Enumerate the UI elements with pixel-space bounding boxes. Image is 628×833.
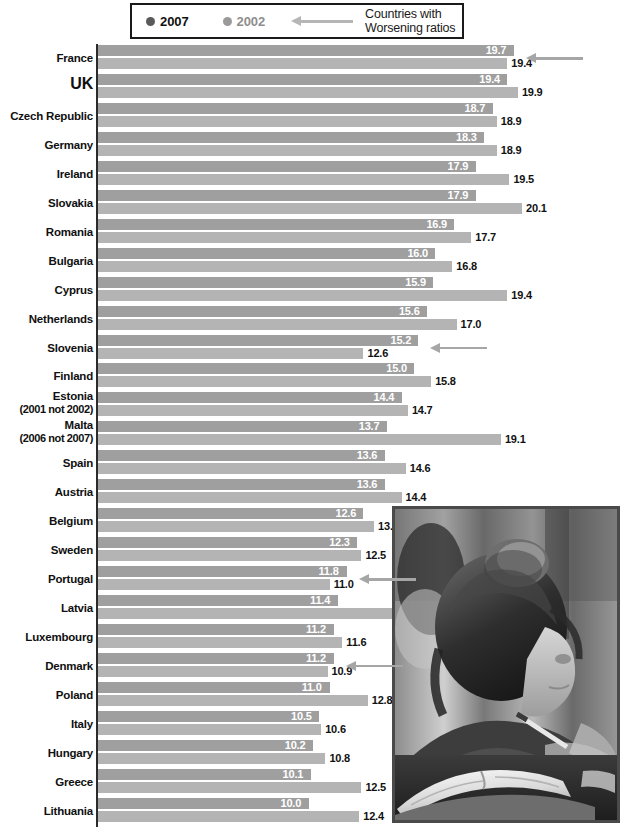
value-label-2002-lithuania: 12.4	[363, 811, 384, 822]
value-label-2002-malta: 19.1	[505, 434, 526, 445]
bar-2007-greece	[97, 769, 311, 780]
value-label-2007-estonia: 14.4	[374, 392, 395, 403]
value-label-2007-finland: 15.0	[386, 363, 407, 374]
bar-2007-poland	[97, 682, 330, 693]
category-label-denmark: Denmark	[0, 660, 93, 673]
bar-2002-italy	[97, 724, 321, 735]
category-label-estonia: Estonia(2001 not 2002)	[0, 390, 93, 415]
category-label-austria: Austria	[0, 486, 93, 499]
bar-2007-cyprus	[97, 277, 433, 288]
chart-axis-line	[96, 44, 98, 827]
bar-2007-latvia	[97, 595, 338, 606]
bar-2007-netherlands	[97, 306, 427, 317]
bar-2007-spain	[97, 450, 385, 461]
value-label-2007-latvia: 11.4	[310, 595, 330, 606]
category-label-slovenia: Slovenia	[0, 342, 93, 355]
bar-2007-czech-republic	[97, 103, 493, 114]
value-label-2007-romania: 16.9	[426, 219, 447, 230]
bar-2007-germany	[97, 132, 484, 143]
bar-2002-france	[97, 58, 507, 69]
chart-row: Slovakia17.920.1	[0, 189, 628, 218]
bar-2002-greece	[97, 782, 361, 793]
value-label-2002-cyprus: 19.4	[511, 290, 532, 301]
arrow-left-icon	[291, 15, 353, 27]
bar-2002-austria	[97, 492, 402, 503]
chart-legend: 2007 2002 Countries with Worsening ratio…	[130, 3, 464, 39]
bar-2002-slovenia	[97, 348, 363, 359]
worsening-arrow-icon	[359, 573, 416, 585]
chart-row: Spain13.614.6	[0, 449, 628, 478]
bar-2002-bulgaria	[97, 261, 452, 272]
bar-2007-portugal	[97, 566, 347, 577]
value-label-2002-italy: 10.6	[325, 724, 346, 735]
value-label-2007-austria: 13.6	[357, 479, 378, 490]
bar-2007-estonia	[97, 392, 402, 403]
bar-2002-cyprus	[97, 290, 507, 301]
category-label-latvia: Latvia	[0, 602, 93, 615]
value-label-2007-ireland: 17.9	[448, 161, 469, 172]
value-label-2007-portugal: 11.8	[319, 566, 339, 577]
bar-2007-malta	[97, 421, 387, 432]
chart-row: Germany18.318.9	[0, 131, 628, 160]
value-label-2002-uk: 19.9	[522, 87, 543, 98]
value-label-2007-france: 19.7	[486, 45, 507, 56]
value-label-2007-czech-republic: 18.7	[465, 103, 486, 114]
category-label-luxembourg: Luxembourg	[0, 631, 93, 644]
value-label-2002-germany: 18.9	[501, 145, 522, 156]
bar-2007-bulgaria	[97, 248, 435, 259]
bar-2002-romania	[97, 232, 471, 243]
value-label-2007-slovakia: 17.9	[448, 190, 469, 201]
bar-2002-slovakia	[97, 203, 522, 214]
chart-row: Estonia(2001 not 2002)14.414.7	[0, 391, 628, 420]
bar-2007-luxembourg	[97, 624, 334, 635]
bar-2002-spain	[97, 463, 406, 474]
category-label-romania: Romania	[0, 226, 93, 239]
value-label-2007-belgium: 12.6	[335, 508, 356, 519]
legend-entry-2002: 2002	[223, 5, 266, 37]
worsening-arrow-icon	[346, 660, 403, 672]
value-label-2002-spain: 14.6	[410, 463, 431, 474]
category-label-italy: Italy	[0, 718, 93, 731]
bar-2002-sweden	[97, 550, 361, 561]
chart-row: UK19.419.9	[0, 73, 628, 102]
bar-2002-uk	[97, 87, 518, 98]
bar-2007-lithuania	[97, 798, 309, 809]
value-label-2007-slovenia: 15.2	[390, 335, 411, 346]
bar-2002-czech-republic	[97, 116, 497, 127]
value-label-2002-portugal: 11.0	[334, 579, 354, 590]
value-label-2002-estonia: 14.7	[412, 405, 433, 416]
category-label-hungary: Hungary	[0, 747, 93, 760]
bar-2007-uk	[97, 74, 507, 85]
category-label-malta: Malta(2006 not 2007)	[0, 419, 93, 444]
value-label-2007-germany: 18.3	[456, 132, 477, 143]
bar-2002-portugal	[97, 579, 330, 590]
worsening-arrow-icon	[526, 52, 583, 64]
value-label-2002-sweden: 12.5	[365, 550, 386, 561]
category-label-portugal: Portugal	[0, 573, 93, 586]
legend-note-line2: Worsening ratios	[365, 21, 455, 35]
bar-2007-france	[97, 45, 514, 56]
value-label-2007-sweden: 12.3	[329, 537, 350, 548]
category-label-greece: Greece	[0, 776, 93, 789]
chart-row: Slovenia15.212.6	[0, 334, 628, 363]
value-label-2002-finland: 15.8	[435, 376, 456, 387]
bar-2007-belgium	[97, 508, 363, 519]
value-label-2007-uk: 19.4	[479, 74, 500, 85]
chart-row: Bulgaria16.016.8	[0, 247, 628, 276]
value-label-2007-poland: 11.0	[302, 682, 322, 693]
value-label-2007-malta: 13.7	[359, 421, 380, 432]
legend-label-2002: 2002	[237, 14, 266, 29]
value-label-2007-greece: 10.1	[283, 769, 304, 780]
bar-2002-belgium	[97, 521, 374, 532]
bar-2007-finland	[97, 363, 414, 374]
value-label-2002-bulgaria: 16.8	[456, 261, 477, 272]
bar-2002-hungary	[97, 753, 325, 764]
bar-2007-hungary	[97, 740, 313, 751]
category-label-sweden: Sweden	[0, 544, 93, 557]
legend-dot-2007-icon	[146, 17, 155, 26]
legend-label-2007: 2007	[160, 14, 189, 29]
value-label-2002-greece: 12.5	[365, 782, 386, 793]
chart-row: Czech Republic18.718.9	[0, 102, 628, 131]
bar-2002-finland	[97, 376, 431, 387]
value-label-2007-bulgaria: 16.0	[407, 248, 428, 259]
